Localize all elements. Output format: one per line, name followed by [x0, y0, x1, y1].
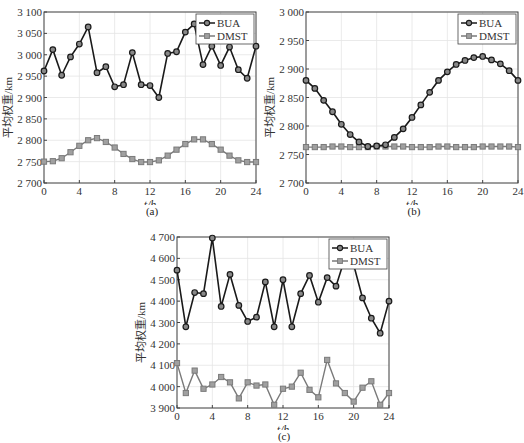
- data-point: [333, 381, 338, 386]
- data-point: [471, 144, 476, 149]
- data-point: [147, 83, 153, 89]
- data-point: [253, 159, 258, 164]
- data-point: [360, 385, 365, 390]
- data-point: [321, 144, 326, 149]
- data-point: [68, 150, 73, 155]
- data-point: [489, 57, 495, 63]
- y-tick-label: 3 000: [279, 6, 304, 18]
- y-tick-label: 3 050: [17, 27, 42, 39]
- data-point: [236, 303, 242, 309]
- data-point: [245, 380, 250, 385]
- data-point: [86, 138, 91, 143]
- legend: BUADMST: [458, 14, 516, 44]
- legend-label: BUA: [217, 17, 240, 29]
- x-tick-label: 20: [348, 410, 360, 422]
- data-point: [59, 72, 65, 78]
- legend-bua-icon: [466, 20, 471, 25]
- data-point: [227, 380, 232, 385]
- data-point: [183, 324, 189, 330]
- data-point: [130, 50, 136, 56]
- data-point: [298, 291, 304, 297]
- x-tick-label: 4: [77, 185, 83, 197]
- data-point: [356, 139, 362, 145]
- data-point: [383, 142, 389, 148]
- data-point: [192, 368, 197, 373]
- data-point: [201, 291, 207, 297]
- data-point: [183, 29, 189, 35]
- data-point: [303, 144, 308, 149]
- data-point: [339, 144, 344, 149]
- x-tick-label: 24: [251, 185, 263, 197]
- y-tick-label: 4 100: [150, 359, 175, 371]
- data-point: [445, 144, 450, 149]
- y-tick-label: 2 800: [17, 134, 42, 146]
- data-point: [112, 84, 118, 90]
- data-point: [50, 159, 55, 164]
- data-point: [200, 62, 206, 68]
- data-point: [454, 144, 459, 149]
- y-tick-label: 2 900: [279, 63, 304, 75]
- data-point: [289, 324, 295, 330]
- data-point: [360, 295, 366, 301]
- data-point: [156, 95, 162, 101]
- y-axis-label: 平均权重/km: [134, 302, 147, 364]
- x-tick-label: 16: [180, 185, 192, 197]
- data-point: [41, 68, 47, 74]
- legend-dmst-icon: [205, 34, 210, 39]
- data-point: [130, 156, 135, 161]
- data-point: [165, 153, 170, 158]
- data-point: [103, 64, 109, 70]
- data-point: [515, 144, 520, 149]
- data-point: [227, 153, 232, 158]
- x-tick-label: 24: [513, 185, 524, 197]
- y-tick-label: 4 400: [150, 295, 175, 307]
- data-point: [369, 379, 374, 384]
- data-point: [183, 141, 188, 146]
- data-point: [156, 158, 161, 163]
- data-point: [453, 62, 459, 68]
- data-point: [330, 144, 335, 149]
- chart-c: 048121620243 9004 0004 1004 2004 3004 40…: [133, 225, 395, 430]
- data-point: [200, 137, 205, 142]
- data-point: [138, 82, 144, 88]
- data-point: [121, 82, 127, 88]
- data-point: [227, 272, 233, 278]
- data-point: [378, 402, 383, 407]
- data-point: [312, 144, 317, 149]
- y-tick-label: 2 950: [17, 70, 42, 82]
- data-point: [289, 384, 294, 389]
- data-point: [418, 102, 424, 108]
- y-tick-label: 4 200: [150, 338, 175, 350]
- data-point: [436, 78, 442, 84]
- legend: BUADMST: [196, 14, 254, 44]
- data-point: [377, 330, 383, 336]
- data-point: [369, 315, 375, 321]
- data-point: [271, 324, 277, 330]
- y-tick-label: 2 900: [17, 92, 42, 104]
- y-tick-label: 3 000: [17, 49, 42, 61]
- caption-b: (b): [394, 205, 434, 217]
- y-tick-label: 4 500: [150, 274, 175, 286]
- data-point: [348, 144, 353, 149]
- legend-dmst-icon: [467, 34, 472, 39]
- x-tick-label: 12: [278, 410, 289, 422]
- legend-dmst-icon: [338, 259, 343, 264]
- data-point: [245, 319, 251, 325]
- data-point: [165, 51, 171, 57]
- data-point: [506, 68, 512, 74]
- x-axis-label: t/h: [277, 423, 290, 430]
- x-tick-label: 4: [210, 410, 216, 422]
- legend-label: BUA: [479, 17, 502, 29]
- data-point: [94, 70, 100, 76]
- data-point: [272, 402, 277, 407]
- x-tick-label: 0: [41, 185, 47, 197]
- data-point: [236, 396, 241, 401]
- data-point: [201, 386, 206, 391]
- data-point: [192, 290, 198, 296]
- data-point: [174, 49, 180, 55]
- y-tick-label: 4 700: [150, 231, 175, 243]
- data-point: [236, 67, 242, 73]
- data-point: [254, 314, 260, 320]
- data-point: [324, 275, 330, 281]
- data-point: [77, 143, 82, 148]
